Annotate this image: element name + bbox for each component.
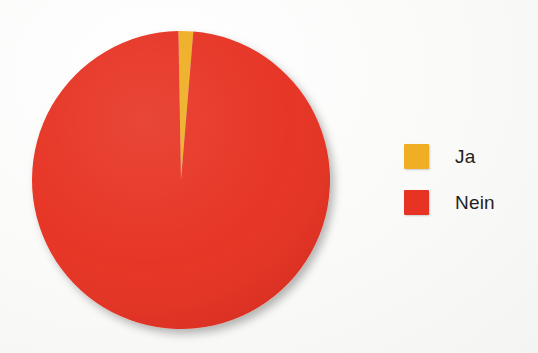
legend-label-ja: Ja xyxy=(455,147,475,166)
legend-swatch-ja xyxy=(404,144,429,169)
chart-legend: Ja Nein xyxy=(404,133,528,225)
pie-sheen-overlay xyxy=(32,31,330,329)
legend-item-nein[interactable]: Nein xyxy=(404,179,528,225)
pie-svg xyxy=(32,31,330,329)
legend-item-ja[interactable]: Ja xyxy=(404,133,528,179)
pie-chart-figure: Ja Nein xyxy=(0,0,538,353)
pie-chart xyxy=(32,31,330,329)
legend-label-nein: Nein xyxy=(455,193,495,212)
legend-swatch-nein xyxy=(404,190,429,215)
